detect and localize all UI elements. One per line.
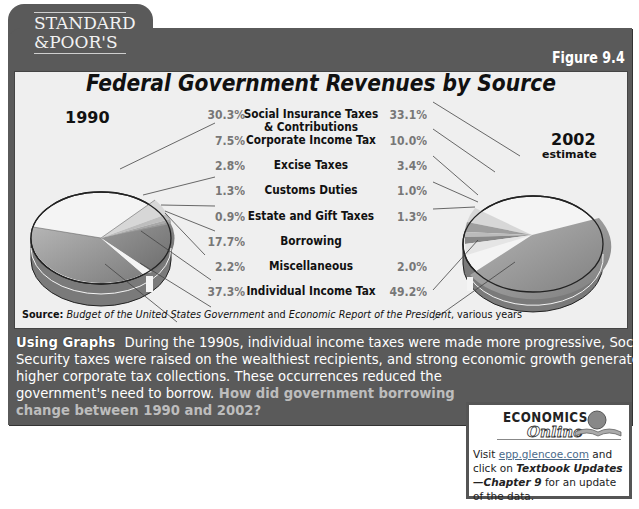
value-1990-social-insurance: 30.3% — [200, 108, 245, 122]
value-2002-misc: 2.0% — [382, 260, 427, 274]
source-and: and — [264, 308, 288, 320]
figure-label: Figure 9.4 — [552, 48, 625, 67]
logo-line-2: &POOR'S — [34, 33, 136, 52]
standard-poors-logo: STANDARD &POOR'S — [34, 11, 136, 55]
value-2002-customs: 1.0% — [382, 184, 427, 198]
category-estate-gift-taxes: Estate and Gift Taxes — [223, 210, 399, 223]
source-title-1: Budget of the United States Government — [66, 308, 264, 320]
source-label: Source: — [22, 308, 63, 320]
category-excise-taxes: Excise Taxes — [223, 159, 399, 172]
category-individual-income-tax: Individual Income Tax — [223, 285, 399, 298]
globe-book-icon — [573, 408, 623, 440]
value-1990-excise: 2.8% — [200, 159, 245, 173]
caption-text: During the 1990s, individual income taxe… — [125, 335, 639, 350]
value-1990-corporate: 7.5% — [200, 134, 245, 148]
source-title-2: Economic Report of the President — [289, 308, 451, 320]
value-2002-social-insurance: 33.1% — [382, 108, 427, 122]
caption-text: government's need to borrow. — [16, 386, 214, 401]
category-miscellaneous: Miscellaneous — [223, 260, 399, 273]
value-2002-estate: 1.3% — [382, 210, 427, 224]
value-1990-borrowing: 17.7% — [200, 235, 245, 249]
value-1990-individual: 37.3% — [200, 285, 245, 299]
value-2002-individual: 49.2% — [382, 285, 427, 299]
economics-online-box: ECONOMICS Online Visit epp.glencoe.com a… — [466, 402, 632, 499]
value-1990-estate: 0.9% — [200, 210, 245, 224]
pie-2002 — [463, 196, 611, 312]
value-2002-excise: 3.4% — [382, 159, 427, 173]
category-borrowing: Borrowing — [223, 235, 399, 248]
value-1990-misc: 2.2% — [200, 260, 245, 274]
online-instructions: Visit epp.glencoe.com and click on Textb… — [473, 447, 627, 503]
category-customs-duties: Customs Duties — [223, 184, 399, 197]
value-2002-corporate: 10.0% — [382, 134, 427, 148]
pie-1990 — [31, 192, 174, 306]
caption-text: Security taxes were raised on the wealth… — [16, 351, 628, 368]
category-label: & Contributions — [264, 120, 358, 134]
caption-text: higher corporate tax collections. These … — [16, 368, 628, 385]
source-note: Source: Budget of the United States Gove… — [22, 308, 522, 320]
caption-question: How did government borrowing — [214, 386, 454, 401]
category-social-insurance: Social Insurance Taxes & Contributions — [223, 108, 399, 134]
value-1990-customs: 1.3% — [200, 184, 245, 198]
category-corporate-income-tax: Corporate Income Tax — [223, 134, 399, 147]
online-text: Visit — [473, 448, 499, 460]
category-label: Social Insurance Taxes — [244, 107, 379, 121]
source-tail: , various years — [451, 308, 522, 320]
caption-lead: Using Graphs — [16, 335, 115, 350]
glencoe-link[interactable]: epp.glencoe.com — [499, 448, 589, 460]
chart-panel: Federal Government Revenues by Source 19… — [14, 71, 628, 329]
logo-line-1: STANDARD — [34, 14, 136, 33]
